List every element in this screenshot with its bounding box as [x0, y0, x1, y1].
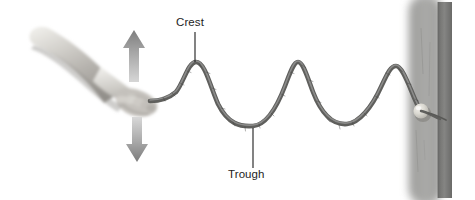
trough-label: Trough: [228, 168, 265, 180]
wave-diagram: Crest Trough: [0, 0, 475, 200]
crest-label: Crest: [176, 16, 204, 28]
